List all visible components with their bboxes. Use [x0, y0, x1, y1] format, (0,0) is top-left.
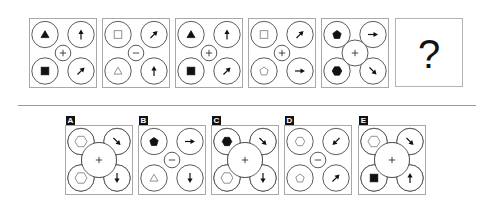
tl-cell — [287, 128, 313, 154]
option-label-badge: B — [139, 116, 148, 125]
circle-frame — [287, 128, 313, 154]
circle-frame — [105, 58, 131, 84]
center-cell — [128, 45, 144, 61]
circle-frame — [287, 165, 313, 191]
circle-frame — [251, 21, 277, 47]
option-d[interactable] — [284, 125, 352, 195]
sequence-panel-1 — [29, 18, 97, 88]
bl-cell — [105, 58, 131, 84]
option-e[interactable] — [358, 125, 426, 195]
sequence-panel-4 — [248, 18, 316, 88]
center-cell — [164, 152, 180, 168]
filled-square-icon — [41, 67, 49, 75]
filled-hexagon-icon — [222, 137, 232, 145]
option-label-badge: C — [212, 116, 221, 125]
filled-square-icon — [187, 67, 195, 75]
sequence-panel-5 — [321, 18, 389, 88]
option-label-badge: A — [66, 116, 75, 125]
option-label-badge: E — [359, 116, 368, 125]
center-cell — [310, 152, 326, 168]
question-mark: ? — [418, 34, 440, 74]
bl-cell — [251, 58, 277, 84]
filled-square-icon — [370, 174, 378, 182]
center-cell — [55, 45, 71, 61]
center-cell — [342, 40, 368, 66]
separator-line — [18, 105, 476, 106]
bl-cell — [287, 165, 313, 191]
tl-cell — [105, 21, 131, 47]
filled-hexagon-icon — [332, 67, 342, 75]
center-cell — [201, 45, 217, 61]
option-a[interactable] — [65, 125, 133, 195]
circle-frame — [105, 21, 131, 47]
missing-panel-placeholder: ? — [395, 18, 463, 87]
sequence-panel-3 — [175, 18, 243, 88]
sequence-panel-2 — [102, 18, 170, 88]
bl-cell — [141, 165, 167, 191]
option-c[interactable] — [211, 125, 279, 195]
circle-frame — [141, 165, 167, 191]
center-cell — [274, 45, 290, 61]
option-label-badge: D — [285, 116, 294, 125]
tl-cell — [251, 21, 277, 47]
option-b[interactable] — [138, 125, 206, 195]
circle-frame — [251, 58, 277, 84]
